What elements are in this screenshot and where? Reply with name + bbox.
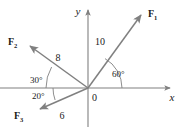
- vector-label-f3: F3: [14, 110, 24, 123]
- angle-label-20: 20°: [32, 91, 45, 101]
- vector-f3-line: [40, 88, 88, 109]
- angle-arc-20: [53, 88, 55, 100]
- magnitude-label-f1: 10: [95, 36, 105, 47]
- angle-arcs-group: [46, 59, 122, 100]
- x-axis-label: x: [169, 91, 175, 103]
- vector-label-f1-subscript: 1: [154, 14, 157, 21]
- vector-diagram-canvas: x y 0 F1 10 60° F2 8 30° F3 6 20°: [0, 0, 179, 127]
- angle-arc-30: [46, 67, 52, 88]
- vector-label-f2: F2: [8, 36, 17, 49]
- magnitude-label-f2: 8: [56, 52, 61, 63]
- magnitude-label-f3: 6: [60, 110, 65, 121]
- axis-group: [0, 10, 170, 127]
- vector-label-f3-subscript: 3: [20, 116, 24, 123]
- vector-label-f1: F1: [148, 8, 157, 21]
- force-diagram: x y 0 F1 10 60° F2 8 30° F3 6 20°: [0, 0, 179, 127]
- force-vectors-group: [30, 15, 141, 109]
- vector-label-f2-subscript: 2: [14, 42, 17, 49]
- angle-label-30: 30°: [30, 75, 43, 85]
- angle-label-60: 60°: [112, 69, 125, 79]
- origin-label: 0: [92, 92, 97, 103]
- y-axis-label: y: [75, 5, 81, 17]
